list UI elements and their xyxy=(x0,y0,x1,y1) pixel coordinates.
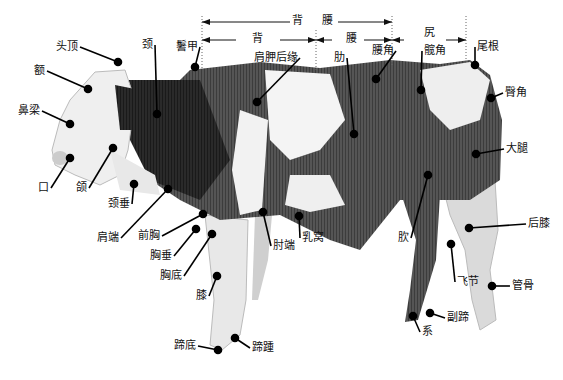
point-marker xyxy=(232,335,239,342)
point-marker xyxy=(427,310,434,317)
label-shoulder-point: 肩端 xyxy=(97,232,119,244)
label-sole: 蹄底 xyxy=(174,340,196,352)
label-dewclaw: 副蹄 xyxy=(447,312,469,324)
point-marker xyxy=(448,241,455,248)
label-back: 背 xyxy=(252,33,263,45)
point-marker xyxy=(373,76,380,83)
label-crown: 头顶 xyxy=(56,41,78,53)
label-pastern: 系 xyxy=(422,326,433,338)
label-loin: 腰 xyxy=(346,33,357,45)
label-sacrum-angle: 髋角 xyxy=(424,45,446,57)
point-marker xyxy=(131,181,138,188)
point-marker xyxy=(472,62,479,69)
label-chest-floor: 胸底 xyxy=(160,270,182,282)
point-marker xyxy=(165,186,172,193)
label-knee: 膝 xyxy=(196,290,207,302)
label-withers: 鬐甲 xyxy=(176,41,198,53)
leader-line xyxy=(451,244,455,282)
leader-line xyxy=(47,71,88,89)
label-elbow: 肘端 xyxy=(273,240,295,252)
point-marker xyxy=(85,86,92,93)
point-marker xyxy=(200,211,207,218)
label-cannon: 管骨 xyxy=(512,280,534,292)
point-marker xyxy=(193,226,200,233)
label-dewlap: 颈垂 xyxy=(108,198,130,210)
point-marker xyxy=(260,209,267,216)
label-stifle: 后膝 xyxy=(528,218,550,230)
label-fore-chest: 前胸 xyxy=(138,230,160,242)
point-marker xyxy=(254,99,261,106)
label-hock: 飞节 xyxy=(457,276,479,288)
point-marker xyxy=(67,155,74,162)
point-marker xyxy=(214,273,221,280)
point-marker xyxy=(425,172,432,179)
label-thigh: 大腿 xyxy=(506,143,528,155)
leader-line xyxy=(421,51,422,90)
point-marker xyxy=(351,131,358,138)
cow-anatomy-diagram: 背 腰 背 腰 头顶额鼻梁口颌颈鬐甲肩胛后缘肋腰角尻髋角尾根臀角大腿颈垂肩端前胸… xyxy=(0,0,563,380)
point-marker xyxy=(110,145,117,152)
leader-line xyxy=(184,234,212,276)
label-milk-well: 乳窝 xyxy=(302,232,324,244)
point-marker xyxy=(296,213,303,220)
point-marker xyxy=(418,87,425,94)
point-marker xyxy=(154,111,161,118)
leader-line xyxy=(80,47,118,62)
point-marker xyxy=(466,225,473,232)
label-forehead: 额 xyxy=(34,65,45,77)
point-marker xyxy=(115,59,122,66)
label-scapula-edge: 肩胛后缘 xyxy=(254,52,298,64)
label-pin-bone: 臀角 xyxy=(505,87,527,99)
point-marker xyxy=(489,283,496,290)
point-marker xyxy=(215,347,222,354)
label-rump: 尻 xyxy=(424,27,435,39)
label-heel: 蹄踵 xyxy=(252,342,274,354)
label-brisket: 胸垂 xyxy=(150,250,172,262)
label-nose-bridge: 鼻梁 xyxy=(18,105,40,117)
point-marker xyxy=(488,95,495,102)
point-marker xyxy=(209,231,216,238)
point-marker xyxy=(410,313,417,320)
leader-line xyxy=(174,229,196,256)
label-rib: 肋 xyxy=(334,52,345,64)
label-back-loin: 背 腰 xyxy=(292,15,342,27)
label-jaw: 颌 xyxy=(76,182,87,194)
label-tail-root: 尾根 xyxy=(477,41,499,53)
point-marker xyxy=(473,151,480,158)
point-marker xyxy=(67,121,74,128)
label-flank: 肷 xyxy=(398,232,409,244)
label-hip: 腰角 xyxy=(372,45,394,57)
point-marker xyxy=(192,64,199,71)
label-neck: 颈 xyxy=(142,39,153,51)
label-mouth: 口 xyxy=(38,182,49,194)
